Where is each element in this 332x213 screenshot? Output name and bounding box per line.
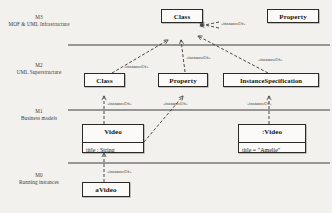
class-box-m2-title: Class: [85, 78, 124, 85]
stereotype-m2-instancespec-to-m3: «instanceOf»: [258, 57, 283, 62]
layer-level-m1: M1: [8, 108, 70, 115]
stereotype-m1-video-to-m2-class: «instanceOf»: [107, 101, 132, 106]
layer-label-m2: M2 UML Superstructure: [8, 62, 70, 76]
property-box-m3-title: Property: [268, 14, 318, 21]
layer-label-m3: M3 MOF & UML Infrastructure: [8, 14, 70, 28]
stereotype-m1-attr-to-m2-property: «instanceOf»: [163, 101, 188, 106]
layer-desc-m3: MOF & UML Infrastructure: [8, 21, 70, 28]
instancespecification-box-m2[interactable]: InstanceSpecification: [223, 73, 319, 87]
layer-level-m2: M2: [8, 62, 70, 69]
video-class-box-m1-attributes: title : String: [83, 142, 143, 157]
video-instance-box-m1[interactable]: :Video title = "Amelie": [238, 124, 306, 153]
video-class-box-m1-title: Video: [83, 129, 143, 136]
stereotype-m3-internal: «instanceOf»: [221, 21, 246, 26]
instancespecification-box-m2-title: InstanceSpecification: [224, 78, 318, 85]
video-class-box-m1-attribute: title : String: [83, 147, 143, 153]
video-class-box-m1[interactable]: Video title : String: [82, 124, 144, 153]
uml-metamodel-diagram: M3 MOF & UML Infrastructure M2 UML Super…: [0, 0, 332, 213]
property-box-m2[interactable]: Property: [158, 73, 208, 87]
property-box-m2-title: Property: [159, 78, 207, 85]
video-instance-box-m1-slots: title = "Amelie": [239, 142, 305, 157]
avideo-object-box-m0[interactable]: aVideo: [82, 182, 130, 197]
layer-level-m0: M0: [8, 172, 70, 179]
stereotype-m0-to-m1: «instanceOf»: [107, 169, 132, 174]
layer-label-m0: M0 Running instances: [8, 172, 70, 186]
video-instance-box-m1-slot: title = "Amelie": [239, 147, 305, 153]
class-box-m3[interactable]: Class: [161, 9, 203, 23]
stereotype-m2-property-to-m3: «instanceOf»: [186, 55, 211, 60]
class-box-m3-title: Class: [162, 14, 202, 21]
layer-label-m1: M1 Business models: [8, 108, 70, 122]
video-instance-box-m1-title: :Video: [239, 129, 305, 136]
property-box-m3[interactable]: Property: [267, 9, 319, 23]
stereotype-m1-instance-to-m2-instancespec: «instanceOf»: [247, 101, 272, 106]
class-box-m2[interactable]: Class: [84, 73, 125, 87]
layer-level-m3: M3: [8, 14, 70, 21]
layer-desc-m1: Business models: [8, 115, 70, 122]
layer-desc-m2: UML Superstructure: [8, 69, 70, 76]
layer-desc-m0: Running instances: [8, 179, 70, 186]
avideo-object-box-m0-title: aVideo: [83, 187, 129, 194]
video-instance-box-m1-header: :Video: [239, 125, 305, 142]
video-class-box-m1-header: Video: [83, 125, 143, 142]
stereotype-m2-class-to-m3: «instanceOf»: [124, 64, 149, 69]
